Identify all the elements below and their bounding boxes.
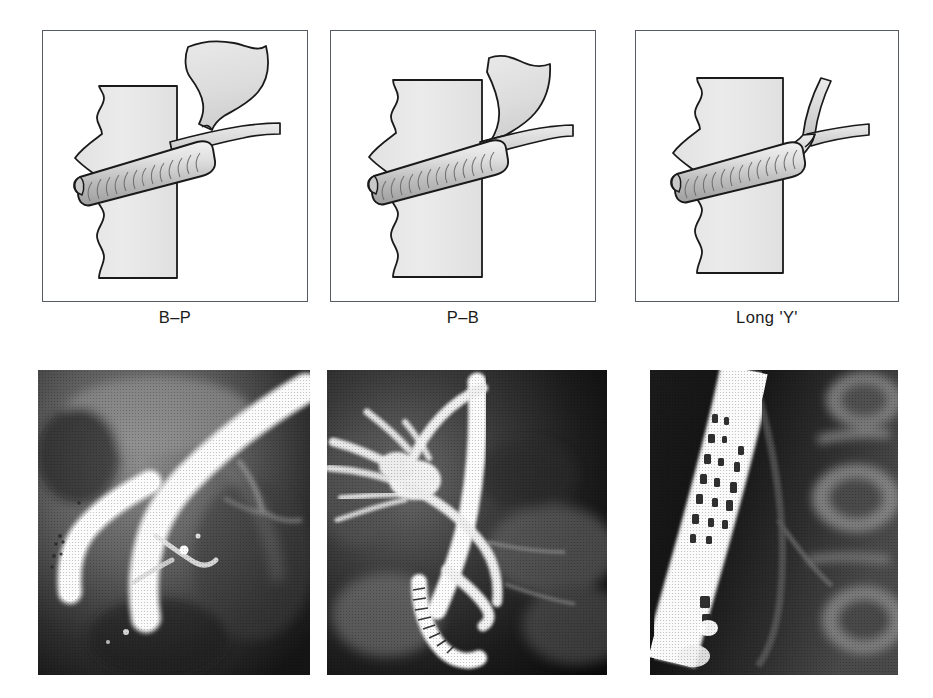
schematic-b-p — [42, 30, 308, 302]
radiograph-image-b-p — [38, 370, 310, 675]
panel-caption-b-p: B–P — [42, 308, 308, 327]
panel-caption-p-b: P–B — [330, 308, 596, 327]
schematic-long-y — [635, 30, 899, 302]
radiograph-p-b: ERCP radiograph showing branching intrah… — [327, 370, 607, 675]
radiograph-long-y: ERCP radiograph showing long stent along… — [650, 370, 898, 675]
gallbladder-b-p — [186, 41, 268, 130]
radiograph-image-p-b — [327, 370, 607, 675]
radiograph-row: ERCP radiograph showing contrast-filled … — [0, 352, 933, 698]
radiograph-image-long-y — [650, 370, 898, 675]
diagram-row: ribbed biliary stent — [0, 0, 933, 352]
diagram-panel-long-y: ribbed biliary stent — [635, 30, 899, 302]
diagram-panel-b-p: ribbed biliary stent — [42, 30, 308, 302]
figure-root: ribbed biliary stent — [0, 0, 933, 698]
schematic-p-b — [330, 30, 596, 302]
radiograph-b-p: ERCP radiograph showing contrast-filled … — [38, 370, 310, 675]
diagram-panel-p-b: ribbed biliary stent — [330, 30, 596, 302]
panel-caption-long-y: Long 'Y' — [635, 308, 899, 327]
